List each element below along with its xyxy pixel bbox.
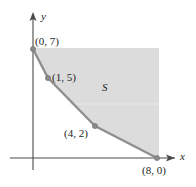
shaded-region-s (33, 48, 159, 158)
point-label-4-2: (4, 2) (64, 128, 88, 139)
data-point-marker-0-7 (30, 46, 35, 51)
point-label-1-5: (1, 5) (52, 72, 76, 83)
point-label-0-7: (0, 7) (35, 36, 59, 47)
y-axis-label: y (41, 11, 46, 22)
data-point-marker-4-2 (92, 123, 97, 128)
data-point-marker-1-5 (45, 75, 50, 80)
point-label-8-0: (8, 0) (142, 165, 166, 176)
figure-container: (0, 7) (1, 5) (4, 2) (8, 0) y x S (0, 0, 196, 187)
region-label-s: S (102, 82, 108, 93)
data-point-marker-8-0 (154, 155, 159, 160)
coordinate-plane-graphic (0, 0, 196, 187)
x-axis-label: x (180, 151, 185, 162)
